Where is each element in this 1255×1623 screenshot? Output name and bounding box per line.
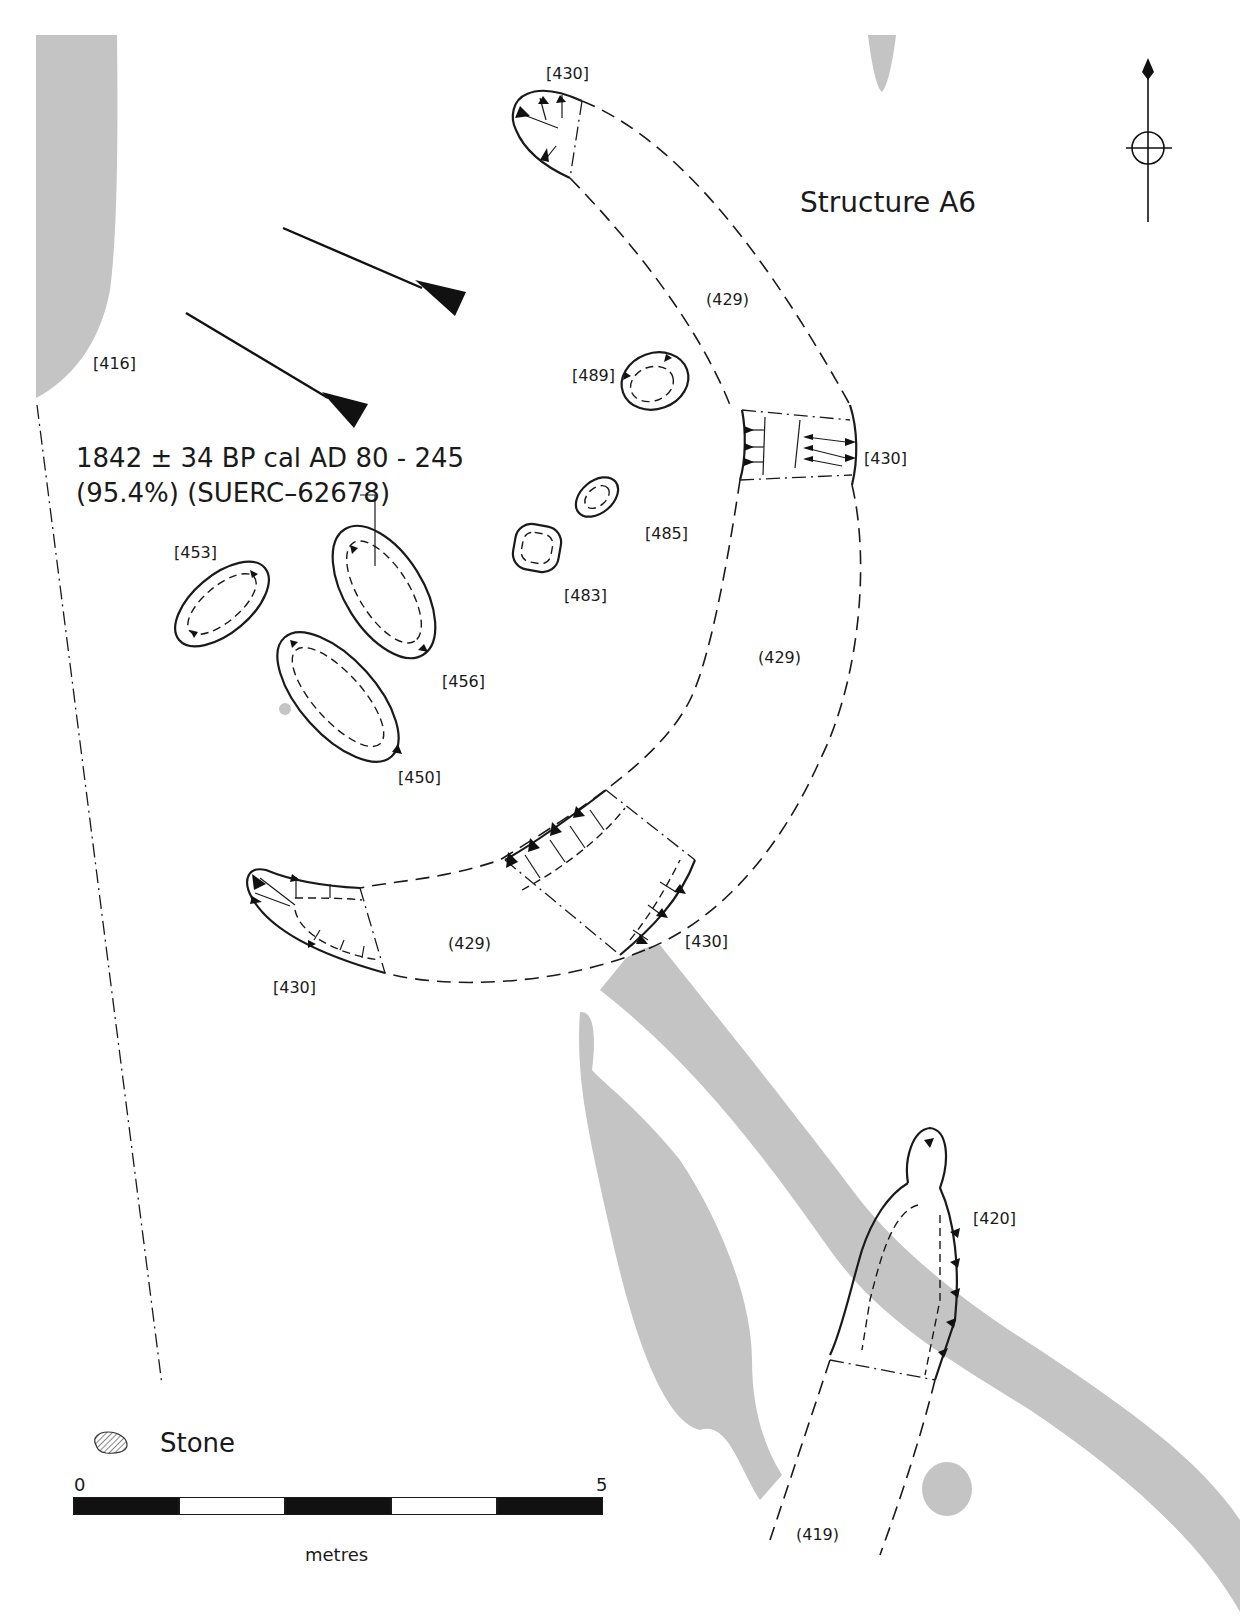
hatched-stone-icon: [95, 1432, 127, 1453]
plan-title: Structure A6: [800, 186, 976, 219]
label-485: [485]: [645, 524, 688, 543]
scale-segment-2: [179, 1497, 285, 1515]
label-420: [420]: [973, 1209, 1016, 1228]
site-plan: [0, 0, 1255, 1623]
label-489: [489]: [572, 366, 615, 385]
label-430-bottom-mid: [430]: [685, 932, 728, 951]
ditch-430: [247, 91, 860, 983]
scale-unit-label: metres: [305, 1544, 368, 1565]
north-arrow-icon: [1126, 58, 1172, 222]
radiocarbon-date: 1842 ± 34 BP cal AD 80 - 245: [76, 443, 464, 473]
grey-top-wedge: [868, 35, 896, 92]
scale-segment-5: [497, 1497, 603, 1515]
pit-453: [160, 546, 283, 662]
label-429-top: (429): [706, 290, 749, 309]
label-483: [483]: [564, 586, 607, 605]
legend-stone-label: Stone: [160, 1428, 235, 1458]
pit-489: [613, 343, 696, 419]
label-456: [456]: [442, 672, 485, 691]
grey-small-stone: [279, 703, 291, 715]
feature-416-fill: [36, 35, 117, 398]
label-453: [453]: [174, 543, 217, 562]
pit-456: [312, 509, 457, 676]
label-430-top: [430]: [546, 64, 589, 83]
radiocarbon-lab-code: (95.4%) (SUERC–62678): [76, 478, 390, 508]
scale-segment-1: [73, 1497, 179, 1515]
label-430-right: [430]: [864, 449, 907, 468]
section-arrow-1: [283, 228, 466, 316]
label-419: (419): [796, 1525, 839, 1544]
label-429-mid: (429): [758, 648, 801, 667]
label-450: [450]: [398, 768, 441, 787]
label-430-bottom-left: [430]: [273, 978, 316, 997]
label-429-bottom: (429): [448, 934, 491, 953]
excavation-limit-line: [37, 405, 162, 1385]
label-416: [416]: [93, 354, 136, 373]
pit-485: [568, 469, 625, 524]
scale-segment-3: [285, 1497, 391, 1515]
scale-segment-4: [391, 1497, 497, 1515]
grey-round-stone: [922, 1462, 972, 1516]
section-arrow-2: [186, 313, 368, 428]
pit-450: [256, 612, 420, 782]
scale-start-label: 0: [74, 1474, 85, 1495]
scale-end-label: 5: [596, 1474, 607, 1495]
pit-483: [510, 521, 563, 574]
